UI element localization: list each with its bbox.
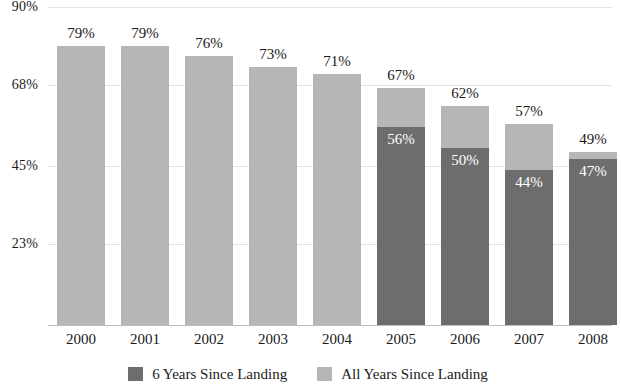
bar-2007[interactable]: 44%57% [505,124,553,325]
legend-swatch-all-years [317,367,332,381]
bar-segment-six-years[interactable] [377,127,425,325]
bar-2000[interactable]: 79% [57,46,105,325]
x-axis-tick-label: 2004 [313,331,361,347]
x-axis-tick-label: 2008 [569,331,617,347]
y-axis-tick-label: 45% [0,159,38,173]
bar-segment-six-years[interactable] [505,170,553,325]
y-axis-tick-label: 68% [0,78,38,92]
bar-value-label-six-years: 56% [377,132,425,147]
bar-value-label-total: 62% [429,86,501,101]
legend-swatch-six-years [128,367,143,381]
bar-value-label-total: 73% [237,47,309,62]
bar-value-label-total: 79% [109,26,181,41]
legend-label-all-years: All Years Since Landing [341,366,488,382]
bar-value-label-total: 57% [493,104,565,119]
legend-item-six-years[interactable]: 6 Years Since Landing [128,366,287,382]
x-axis-tick-label: 2000 [57,331,105,347]
y-axis-tick-label: 90% [0,0,38,14]
bar-segment-all-years[interactable] [249,67,297,325]
bar-value-label-total: 49% [557,132,621,147]
bar-value-label-total: 71% [301,54,373,69]
bar-2001[interactable]: 79% [121,46,169,325]
bar-2005[interactable]: 56%67% [377,88,425,325]
bar-value-label-total: 67% [365,68,437,83]
bar-segment-all-years[interactable] [313,74,361,325]
bar-segment-all-years[interactable] [185,56,233,325]
chart-legend: 6 Years Since Landing All Years Since La… [0,366,616,382]
bar-2008[interactable]: 47%49% [569,152,617,325]
y-axis-tick-label: 23% [0,237,38,251]
x-axis-tick-label: 2007 [505,331,553,347]
legend-label-six-years: 6 Years Since Landing [152,366,287,382]
bar-value-label-total: 79% [45,26,117,41]
x-axis-tick-label: 2005 [377,331,425,347]
legend-item-all-years[interactable]: All Years Since Landing [317,366,488,382]
bar-segment-all-years[interactable] [57,46,105,325]
bar-segment-all-years[interactable] [121,46,169,325]
x-axis-tick-label: 2003 [249,331,297,347]
bar-segment-six-years[interactable] [441,148,489,325]
bar-value-label-six-years: 44% [505,175,553,190]
bar-value-label-total: 76% [173,36,245,51]
x-axis-tick-label: 2006 [441,331,489,347]
bar-2003[interactable]: 73% [249,67,297,325]
plot-area: 90%68%45%23% 79%79%76%73%71%56%67%50%62%… [48,0,612,326]
x-axis-tick-label: 2001 [121,331,169,347]
bar-value-label-six-years: 47% [569,164,617,179]
gridline [48,7,612,8]
bar-value-label-six-years: 50% [441,153,489,168]
bar-2006[interactable]: 50%62% [441,106,489,325]
x-axis-tick-label: 2002 [185,331,233,347]
x-axis-line [48,325,612,326]
bar-2004[interactable]: 71% [313,74,361,325]
bar-segment-six-years[interactable] [569,159,617,325]
bar-2002[interactable]: 76% [185,56,233,325]
